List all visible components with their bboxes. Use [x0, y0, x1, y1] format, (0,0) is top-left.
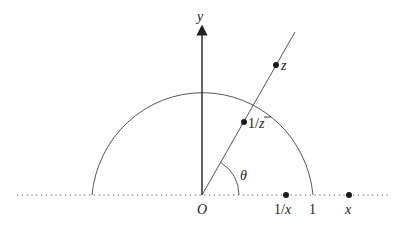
point-inv-conj-z-dot	[241, 119, 247, 125]
point-inv-conj-z-label: 1/z	[248, 116, 265, 131]
unit-label: 1	[309, 202, 316, 217]
point-z-dot	[273, 62, 279, 68]
angle-label: θ	[240, 168, 247, 183]
point-inv-x-label: 1/x	[274, 202, 292, 217]
point-inv-x-dot	[283, 192, 289, 198]
point-z-label: z	[280, 58, 287, 73]
diagram-canvas: y θ z 1/z O 1/x 1 x	[0, 0, 402, 226]
angle-arc	[221, 163, 240, 196]
ray-through-z	[202, 32, 295, 195]
inversion-diagram: y θ z 1/z O 1/x 1 x	[0, 0, 402, 226]
point-x-label: x	[344, 202, 352, 217]
y-axis-label: y	[195, 9, 204, 24]
point-x-dot	[346, 192, 352, 198]
origin-label: O	[197, 202, 207, 217]
